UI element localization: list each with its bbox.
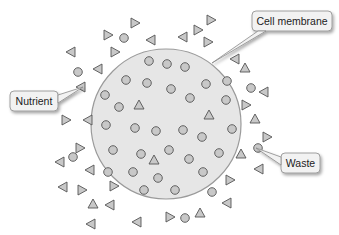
nutrient-molecule-outside [66,47,75,57]
waste-molecule-inside [186,94,195,103]
nutrient-molecule-outside [83,115,92,125]
nutrient-molecule-outside [195,208,205,217]
waste-molecule-outside [74,68,83,77]
label-nutrient: Nutrient [16,95,53,107]
nutrient-molecule-outside [240,63,250,72]
nutrient-molecule-outside [105,200,114,210]
waste-molecule-inside [140,186,149,195]
cell-diffusion-diagram: Cell membraneNutrientWaste [0,0,339,235]
nutrient-molecule-outside [88,199,98,208]
waste-molecule-inside [143,79,152,88]
waste-molecule-inside [129,168,138,177]
waste-molecule-inside [181,63,190,72]
callout-pointer [58,87,83,103]
nutrient-molecule-outside [166,212,175,222]
nutrient-molecule-outside [263,132,272,142]
nutrient-molecule-outside [85,165,94,175]
waste-molecule-outside [208,188,217,197]
callout-pointer [256,148,281,165]
waste-molecule-outside [69,153,78,162]
nutrient-molecule-outside [111,47,120,57]
nutrient-molecule-outside [222,198,231,208]
waste-molecule-inside [215,149,224,158]
waste-molecule-inside [223,77,232,86]
nutrient-molecule-outside [178,32,187,42]
nutrient-molecule-outside [58,182,67,192]
nutrient-molecule-outside [230,54,239,64]
waste-molecule-outside [120,34,129,43]
nutrient-molecule-outside [207,15,216,25]
waste-molecule-inside [198,133,207,142]
waste-molecule-inside [185,155,194,164]
nutrient-molecule-outside [86,219,95,229]
waste-molecule-inside [145,57,154,66]
label-cell-membrane: Cell membrane [256,15,327,27]
nutrient-molecule-outside [204,37,213,47]
nutrient-molecule-outside [236,149,246,158]
nutrient-molecule-outside [104,30,113,40]
cell-body [91,49,241,199]
nutrient-molecule-outside [254,164,263,174]
nutrient-molecule-outside [62,115,71,125]
waste-molecule-outside [181,214,190,223]
waste-molecule-inside [115,103,124,112]
label-waste: Waste [286,157,316,169]
waste-molecule-inside [228,125,237,134]
waste-molecule-inside [104,168,113,177]
waste-molecule-inside [179,126,188,135]
nutrient-molecule-outside [259,87,268,97]
nutrient-molecule-outside [55,157,64,167]
waste-molecule-inside [199,168,208,177]
waste-molecule-inside [102,121,111,130]
waste-molecule-inside [122,76,131,85]
nutrient-molecule-outside [110,181,119,191]
waste-molecule-inside [202,80,211,89]
nutrient-molecule-outside [93,64,102,74]
waste-molecule-inside [131,124,140,133]
nutrient-molecule-outside [76,143,85,153]
nutrient-molecule-outside [242,100,251,110]
waste-molecule-inside [101,91,110,100]
waste-molecule-inside [109,146,118,155]
waste-molecule-inside [152,127,161,136]
waste-molecule-inside [154,174,163,183]
waste-molecule-inside [137,150,146,159]
waste-molecule-inside [163,60,172,69]
nutrient-molecule-outside [250,114,260,123]
waste-molecule-inside [171,186,180,195]
waste-molecule-outside [247,84,256,93]
nutrient-molecule-outside [146,35,155,45]
nutrient-molecule-outside [132,217,141,227]
nutrient-molecule-outside [194,25,203,35]
waste-molecule-inside [222,96,231,105]
nutrient-molecule-outside [226,175,235,185]
nutrient-molecule-outside [131,18,140,28]
waste-molecule-inside [167,85,176,94]
nutrient-molecule-outside [78,185,87,195]
waste-molecule-inside [165,146,174,155]
